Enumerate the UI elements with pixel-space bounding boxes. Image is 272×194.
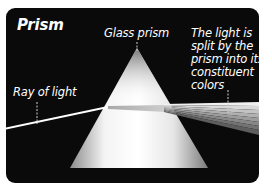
caption-line: colors [191, 79, 259, 92]
glass-prism-label: Glass prism [104, 27, 169, 40]
dispersion-caption: The light is split by the prism into its… [191, 27, 259, 92]
prism-diagram-card: Prism Glass prism Ray of light The light… [6, 8, 259, 183]
ray-of-light-label: Ray of light [13, 86, 76, 99]
light-ray-icon [6, 107, 108, 129]
diagram-title: Prism [17, 17, 64, 34]
